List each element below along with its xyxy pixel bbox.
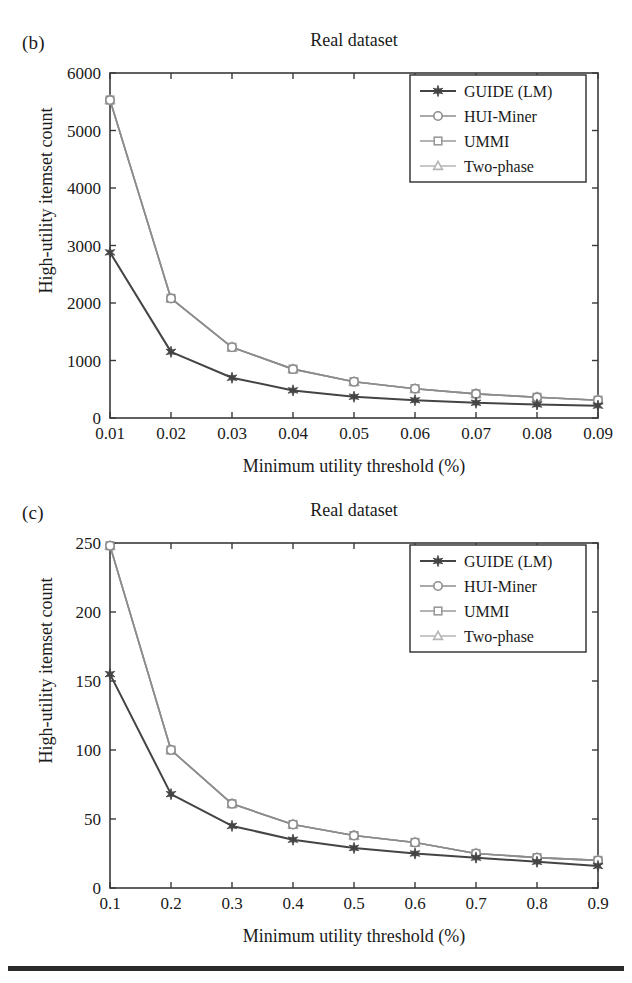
data-point-marker	[167, 294, 175, 302]
chart-svg-b: 0.010.020.030.040.050.060.070.080.090100…	[0, 20, 632, 480]
data-point-marker	[350, 378, 358, 386]
data-point-marker	[106, 542, 114, 550]
bottom-rule	[8, 966, 624, 971]
legend-label: HUI-Miner	[464, 108, 538, 125]
y-tick-label: 0	[93, 409, 102, 428]
data-point-marker	[166, 789, 176, 800]
y-tick-label: 3000	[67, 237, 101, 256]
data-point-marker	[289, 820, 297, 828]
legend-label: HUI-Miner	[464, 578, 538, 595]
legend-marker	[434, 112, 442, 120]
legend-marker	[434, 137, 442, 145]
x-tick-label: 0.9	[587, 894, 608, 913]
series-guide-lm	[105, 669, 603, 872]
chart-legend: GUIDE (LM)HUI-MinerUMMITwo-phase	[410, 545, 586, 652]
y-axis-label-c: High-utility itemset count	[36, 521, 57, 821]
legend-marker	[434, 582, 442, 590]
y-tick-label: 6000	[67, 64, 101, 83]
x-tick-label: 0.5	[343, 894, 364, 913]
x-tick-label: 0.7	[465, 894, 487, 913]
legend-label: UMMI	[464, 603, 509, 620]
chart-panel-b: (b) Real dataset 0.010.020.030.040.050.0…	[0, 20, 632, 480]
x-tick-label: 0.4	[282, 894, 304, 913]
data-point-marker	[105, 669, 115, 680]
data-point-marker	[167, 746, 175, 754]
x-tick-label: 0.08	[522, 424, 552, 443]
x-tick-label: 0.02	[156, 424, 186, 443]
legend-label: Two-phase	[464, 158, 534, 176]
legend-label: Two-phase	[464, 628, 534, 646]
y-tick-label: 1000	[67, 352, 101, 371]
legend-label: GUIDE (LM)	[464, 83, 552, 101]
x-tick-label: 0.8	[526, 894, 547, 913]
x-tick-label: 0.1	[99, 894, 120, 913]
legend-marker	[434, 607, 442, 615]
y-tick-label: 0	[93, 879, 102, 898]
y-tick-label: 4000	[67, 179, 101, 198]
y-tick-label: 250	[76, 534, 102, 553]
x-axis-label-c: Minimum utility threshold (%)	[110, 926, 598, 947]
x-axis-label-b: Minimum utility threshold (%)	[110, 456, 598, 477]
chart-svg-c: 0.10.20.30.40.50.60.70.80.90501001502002…	[0, 490, 632, 950]
y-tick-label: 50	[84, 810, 101, 829]
data-point-marker	[411, 384, 419, 392]
y-axis-label-b: High-utility itemset count	[36, 51, 57, 351]
y-tick-label: 200	[76, 603, 102, 622]
x-tick-label: 0.05	[339, 424, 369, 443]
data-point-marker	[228, 800, 236, 808]
y-tick-label: 100	[76, 741, 102, 760]
data-point-marker	[228, 343, 236, 351]
data-point-marker	[289, 365, 297, 373]
x-tick-label: 0.2	[160, 894, 181, 913]
chart-panel-c: (c) Real dataset 0.10.20.30.40.50.60.70.…	[0, 490, 632, 950]
data-point-marker	[350, 831, 358, 839]
legend-label: GUIDE (LM)	[464, 553, 552, 571]
figure-page: (b) Real dataset 0.010.020.030.040.050.0…	[0, 0, 632, 983]
data-point-marker	[411, 838, 419, 846]
x-tick-label: 0.04	[278, 424, 308, 443]
chart-legend: GUIDE (LM)HUI-MinerUMMITwo-phase	[410, 75, 586, 182]
y-tick-label: 150	[76, 672, 102, 691]
x-tick-label: 0.6	[404, 894, 425, 913]
legend-label: UMMI	[464, 133, 509, 150]
x-tick-label: 0.3	[221, 894, 242, 913]
y-tick-label: 5000	[67, 122, 101, 141]
x-tick-label: 0.03	[217, 424, 247, 443]
plot-area-c: 0.10.20.30.40.50.60.70.80.90501001502002…	[0, 490, 632, 950]
plot-area-b: 0.010.020.030.040.050.060.070.080.090100…	[0, 20, 632, 480]
x-tick-label: 0.09	[583, 424, 613, 443]
x-tick-label: 0.07	[461, 424, 491, 443]
x-tick-label: 0.06	[400, 424, 430, 443]
data-point-marker	[106, 96, 114, 104]
y-tick-label: 2000	[67, 294, 101, 313]
